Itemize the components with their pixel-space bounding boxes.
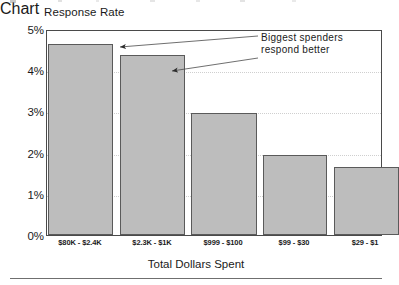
bar-99-30 (263, 155, 327, 235)
bar-series (47, 31, 381, 235)
y-axis-tick-labels: 5% 4% 3% 2% 1% 0% (0, 0, 44, 285)
y-tick-label: 4% (4, 66, 44, 78)
y-tick-label: 5% (4, 25, 44, 37)
x-tick-label: $99 - $30 (261, 238, 327, 248)
x-tick-label: $2.3K - $1K (118, 238, 186, 248)
x-axis-title: Total Dollars Spent (0, 258, 392, 270)
clipped-text-artifacts (0, 0, 392, 5)
bar-999-100 (191, 113, 257, 235)
bottom-divider (10, 278, 382, 279)
x-tick-label: $29 - $1 (332, 238, 398, 248)
annotation-text: Biggest spenders respond better (261, 32, 343, 56)
x-axis-tick-labels: $80K - $2.4K $2.3K - $1K $999 - $100 $99… (46, 238, 382, 252)
bar-80k-2.4k (48, 44, 113, 235)
y-tick-label: 1% (4, 190, 44, 202)
y-axis-title: Response Rate (44, 6, 125, 18)
bar-2.3k-1k (120, 55, 185, 235)
x-tick-label: $999 - $100 (189, 238, 257, 248)
y-tick-label: 0% (4, 231, 44, 243)
bar-29-1 (334, 167, 399, 235)
y-tick-label: 2% (4, 149, 44, 161)
plot-area (46, 30, 382, 236)
annotation-line-2: respond better (261, 44, 343, 56)
x-tick-label: $80K - $2.4K (46, 238, 114, 248)
y-tick-label: 3% (4, 107, 44, 119)
annotation-line-1: Biggest spenders (261, 32, 343, 44)
